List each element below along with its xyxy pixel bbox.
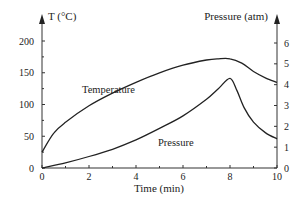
y-left-arrow-icon — [39, 14, 45, 24]
y-right-tick-label: 3 — [284, 100, 289, 111]
y-left-tick-label: 50 — [24, 131, 34, 142]
tick-labels: 02468100501001502000123456 — [19, 36, 289, 183]
y-right-tick-label: 6 — [284, 38, 289, 49]
x-tick-label: 10 — [272, 171, 282, 182]
x-tick-label: 4 — [134, 171, 139, 182]
y-left-axis-title: T (°C) — [48, 10, 77, 23]
x-tick-label: 8 — [228, 171, 233, 182]
y-right-axis-title: Pressure (atm) — [204, 10, 268, 23]
y-right-tick-label: 5 — [284, 58, 289, 69]
y-right-arrow-icon — [274, 14, 280, 24]
x-tick-label: 2 — [87, 171, 92, 182]
x-axis-title: Time (min) — [134, 182, 184, 195]
y-left-tick-label: 100 — [19, 99, 34, 110]
y-left-tick-label: 150 — [19, 67, 34, 78]
y-right-tick-label: 4 — [284, 79, 289, 90]
y-left-tick-label: 200 — [19, 36, 34, 47]
y-right-tick-label: 0 — [284, 163, 289, 174]
pressure-curve-label: Pressure — [158, 137, 194, 148]
x-tick-label: 0 — [40, 171, 45, 182]
dual-axis-line-chart: 02468100501001502000123456 T (°C) Pressu… — [0, 0, 305, 205]
y-right-tick-label: 2 — [284, 121, 289, 132]
x-tick-label: 6 — [181, 171, 186, 182]
curves — [42, 58, 277, 168]
y-left-tick-label: 0 — [29, 163, 34, 174]
pressure-curve — [42, 78, 277, 168]
temperature-curve-label: Temperature — [82, 84, 135, 95]
y-right-tick-label: 1 — [284, 142, 289, 153]
